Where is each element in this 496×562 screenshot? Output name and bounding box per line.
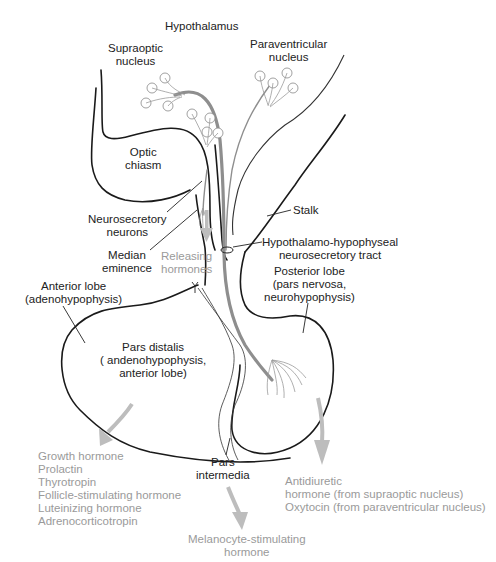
hormone-item: Oxytocin (from paraventricular nucleus) [285, 501, 486, 514]
posterior-hormones-arrow [314, 398, 330, 465]
anterior-hormones-arrow [99, 404, 132, 446]
hormone-item: Prolactin [38, 463, 181, 476]
label-supraoptic-l2: nucleus [108, 55, 163, 68]
label-median-l1: Median [102, 249, 152, 262]
label-supraoptic: Supraoptic nucleus [108, 42, 163, 68]
label-posterior-l2: (pars nervosa, [264, 278, 355, 291]
label-pars-distalis-l1: Pars distalis [100, 341, 206, 354]
hormone-item: hormone (from supraoptic nucleus) [285, 488, 486, 501]
label-optic-chiasm: Optic chiasm [125, 146, 161, 172]
pars-intermedia-line-2 [202, 288, 234, 462]
label-stalk: Stalk [293, 204, 319, 217]
label-pars-distalis: Pars distalis ( andenohypophysis, anteri… [100, 341, 206, 380]
label-posterior-lobe: Posterior lobe (pars nervosa, neurohypop… [264, 265, 355, 304]
label-anterior-l1: Anterior lobe [25, 280, 122, 293]
label-releasing-l2: hormones [161, 263, 212, 276]
label-posterior-l1: Posterior lobe [264, 265, 355, 278]
hormone-item: Adrenocorticotropin [38, 515, 181, 528]
hormone-item: Melanocyte-stimulating [188, 533, 306, 546]
label-supraoptic-l1: Supraoptic [108, 42, 163, 55]
label-tract: Hypothalamo-hypophyseal neurosecretory t… [262, 236, 398, 262]
hormone-item: Growth hormone [38, 450, 181, 463]
label-anterior-l2: (adenohypophysis) [25, 293, 122, 306]
label-pars-intermedia-l1: Pars [196, 456, 250, 469]
label-posterior-l3: neurohypophysis) [264, 291, 355, 304]
label-pars-intermedia: Pars intermedia [196, 456, 250, 482]
stalk-wall-right [245, 115, 345, 252]
label-paraventricular-l1: Paraventricular [250, 38, 327, 51]
label-pars-intermedia-l2: intermedia [196, 469, 250, 482]
hormone-item: Thyrotropin [38, 476, 181, 489]
label-neurosecretory-l1: Neurosecretory [88, 213, 167, 226]
anterior-hormone-list: Growth hormone Prolactin Thyrotropin Fol… [38, 450, 181, 528]
leader-tract [233, 242, 262, 247]
hormone-item: Antidiuretic [285, 475, 486, 488]
hormone-item: Follicle-stimulating hormone [38, 489, 181, 502]
label-paraventricular: Paraventricular nucleus [250, 38, 327, 64]
label-pars-distalis-l3: anterior lobe) [100, 367, 206, 380]
label-tract-l2: neurosecretory tract [262, 249, 398, 262]
label-hypothalamus: Hypothalamus [165, 20, 239, 33]
label-median-eminence: Median eminence [102, 249, 152, 275]
neurosecretory-axon [203, 170, 207, 215]
label-neurosecretory-neurons: Neurosecretory neurons [88, 213, 167, 239]
hormone-item: hormone [188, 546, 306, 559]
intermedia-hormone-arrow [228, 487, 248, 530]
third-ventricle-outline [233, 55, 344, 235]
leader-stalk [267, 210, 291, 216]
supraoptic-neurons [141, 73, 185, 111]
label-neurosecretory-l2: neurons [88, 226, 167, 239]
label-pars-distalis-l2: ( andenohypophysis, [100, 354, 206, 367]
posterior-hormone-list: Antidiuretic hormone (from supraoptic nu… [285, 475, 486, 514]
paraventricular-neurons [255, 68, 298, 107]
label-optic-chiasm-l1: Optic [125, 146, 161, 159]
label-anterior-lobe: Anterior lobe (adenohypophysis) [25, 280, 122, 306]
label-paraventricular-l2: nucleus [250, 51, 327, 64]
intermediate-hormone-label: Melanocyte-stimulating hormone [188, 533, 306, 559]
label-tract-l1: Hypothalamo-hypophyseal [262, 236, 398, 249]
label-median-l2: eminence [102, 262, 152, 275]
median-eminence-neurons [187, 109, 223, 147]
label-releasing-hormones: Releasing hormones [161, 250, 212, 276]
leader-intermedia [226, 438, 230, 455]
label-optic-chiasm-l2: chiasm [125, 159, 161, 172]
hormone-item: Luteinizing hormone [38, 502, 181, 515]
label-releasing-l1: Releasing [161, 250, 212, 263]
optic-chiasm-outline [91, 88, 190, 202]
